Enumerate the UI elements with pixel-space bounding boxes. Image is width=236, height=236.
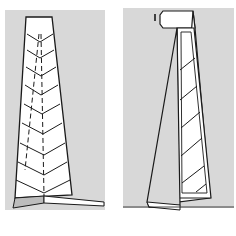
right-folding-diagram: [118, 0, 236, 236]
left-folding-diagram: [0, 0, 118, 236]
left-panel: [0, 0, 118, 236]
top-flap: [160, 11, 195, 28]
right-panel: [118, 0, 236, 236]
